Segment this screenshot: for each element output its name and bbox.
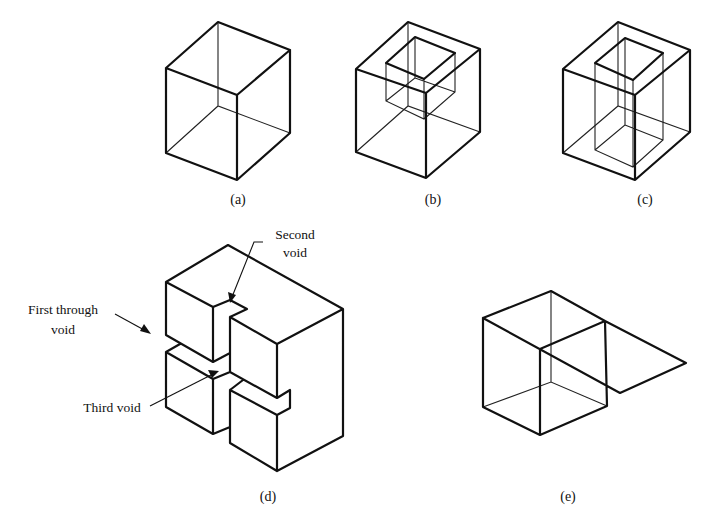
visible-edges [356,22,480,178]
annotation-second-void: Second void [228,227,315,303]
panel-e-label: (e) [560,489,576,505]
void-hidden-edges [595,38,663,167]
leader-line [150,374,213,406]
second-void-label-line1: Second [275,227,315,242]
first-void-label-line2: void [51,322,75,337]
second-void-label-line2: void [283,245,307,260]
panel-b-label: (b) [425,192,442,208]
arrowhead-icon [140,324,151,334]
visible-edges [563,22,690,180]
panel-e-cube [483,291,686,435]
first-void-label-line1: First through [28,302,98,317]
panel-a-cube [166,22,290,180]
annotation-third-void: Third void [83,370,219,415]
visible-edges [166,245,343,471]
panel-b-cube [356,22,480,178]
hidden-edges [483,291,607,407]
leader-line [115,314,146,331]
visible-edges [166,22,290,180]
void-opening [595,38,663,80]
figure-canvas: (a) (b) (c) (d) First through void Secon… [0,0,707,525]
panel-c-label: (c) [637,192,653,208]
panel-d-solid [166,245,343,471]
void-opening [386,37,455,79]
visible-edges [483,291,686,435]
third-void-label: Third void [83,400,141,415]
panel-d-label: (d) [260,489,277,505]
panel-a-label: (a) [230,192,246,208]
panel-c-cube [563,22,690,180]
annotation-first-through-void: First through void [28,302,151,337]
